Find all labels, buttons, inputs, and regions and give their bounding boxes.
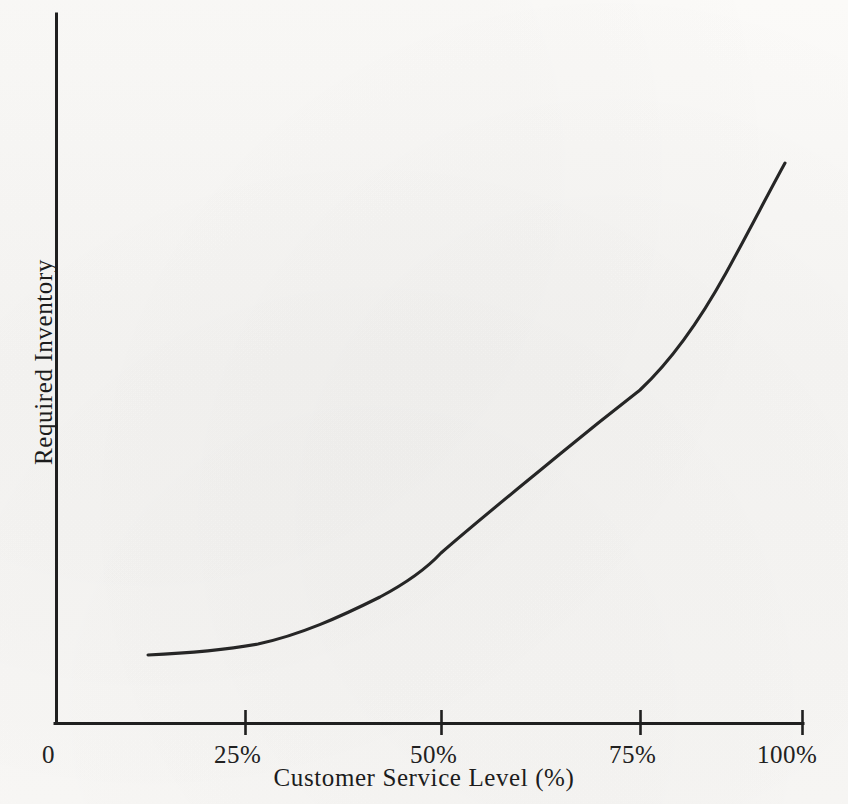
inventory-curve [148, 163, 785, 655]
y-axis-title: Required Inventory [30, 172, 64, 552]
plot-area [0, 0, 848, 804]
chart-figure: 0 25% 50% 75% 100% Customer Service Leve… [0, 0, 848, 804]
x-axis-title: Customer Service Level (%) [0, 764, 848, 792]
